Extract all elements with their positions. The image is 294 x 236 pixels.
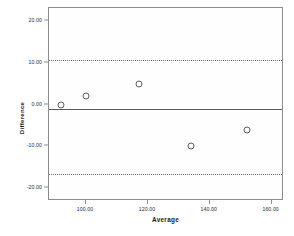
upper-limit-of-agreement <box>49 60 282 61</box>
data-point <box>243 126 250 133</box>
data-point <box>83 93 90 100</box>
y-axis-title: Difference <box>19 102 25 134</box>
x-tick-mark <box>147 200 148 204</box>
plot-area <box>48 7 283 200</box>
data-point <box>58 101 65 108</box>
y-tick-label: 20.00 <box>2 17 42 23</box>
x-axis-title: Average <box>48 216 283 223</box>
x-tick-label: 140.00 <box>201 206 217 212</box>
bland-altman-chart: Difference 20.0010.000.00-10.00-20.00 10… <box>0 0 294 236</box>
y-tick-label: 0.00 <box>2 101 42 107</box>
data-point <box>188 143 195 150</box>
x-tick-mark <box>209 200 210 204</box>
x-tick-label: 160.00 <box>262 206 278 212</box>
data-point <box>135 80 142 87</box>
lower-limit-of-agreement <box>49 174 282 175</box>
x-tick-mark <box>271 200 272 204</box>
y-tick-label: -20.00 <box>2 184 42 190</box>
x-tick-mark <box>85 200 86 204</box>
x-tick-label: 100.00 <box>77 206 93 212</box>
y-tick-label: 10.00 <box>2 59 42 65</box>
x-tick-label: 120.00 <box>139 206 155 212</box>
mean-difference <box>49 109 282 110</box>
y-tick-label: -10.00 <box>2 142 42 148</box>
